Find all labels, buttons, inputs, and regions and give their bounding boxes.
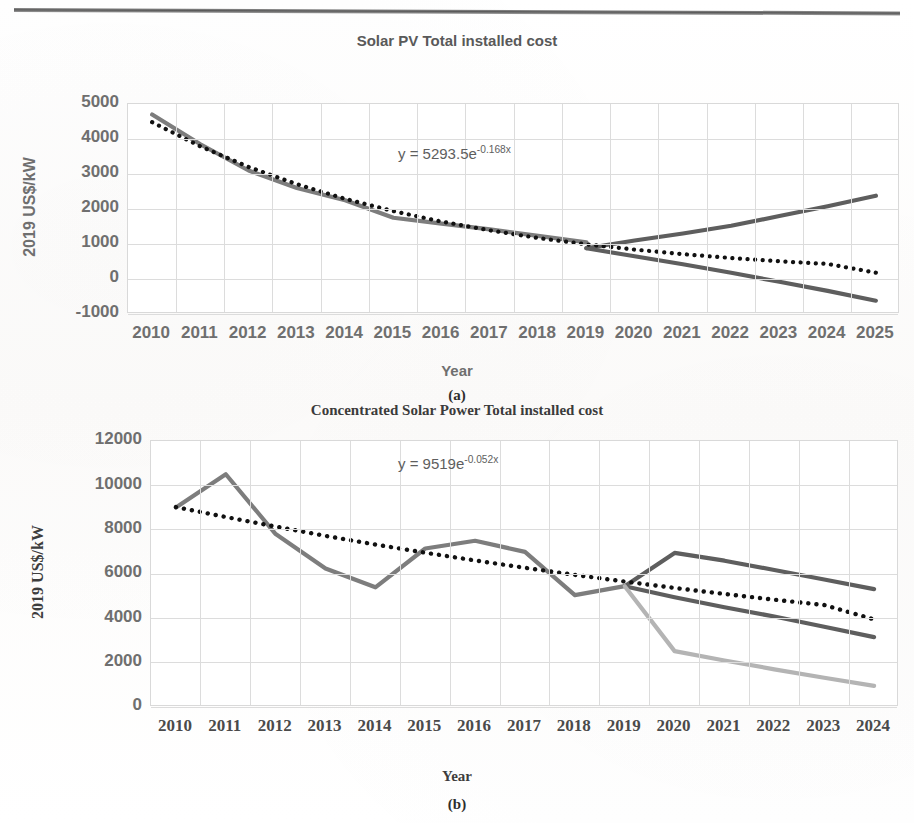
x-axis-tick-label: 2016 [449,716,499,736]
gridline-vertical [350,441,351,705]
chart-b-x-axis-label: Year [0,768,914,785]
x-axis-tick-label: 2022 [706,323,754,343]
gridline-vertical [707,104,708,312]
x-axis-tick-label: 2016 [417,323,465,343]
chart-b-equation-exponent: -0.052x [464,454,498,465]
x-axis-tick-label: 2023 [798,716,848,736]
x-axis-tick-label: 2015 [399,716,449,736]
y-axis-tick-label: 0 [44,267,119,287]
chart-b-trendline-equation: y = 9519e-0.052x [398,454,498,472]
gridline-vertical [649,441,650,705]
gridline-vertical [200,441,201,705]
chart-a-plot-area [127,103,899,313]
x-axis-tick-label: 2020 [610,323,658,343]
y-axis-tick-label: 6000 [47,562,142,582]
x-axis-tick-label: 2020 [649,716,699,736]
x-axis-tick-label: 2017 [499,716,549,736]
x-axis-tick-label: 2010 [127,323,175,343]
y-axis-tick-label: 4000 [47,607,142,627]
x-axis-tick-label: 2024 [803,323,851,343]
gridline-vertical [321,104,322,312]
gridline-horizontal [151,707,897,708]
gridline-vertical [658,104,659,312]
chart-a-title: Solar PV Total installed cost [0,32,914,49]
x-axis-tick-label: 2023 [754,323,802,343]
chart-b-caption: (b) [0,796,914,813]
gridline-vertical [803,104,804,312]
chart-a-trendline-equation: y = 5293.5e-0.168x [398,144,511,162]
x-axis-tick-label: 2018 [513,323,561,343]
x-axis-tick-label: 2011 [200,716,250,736]
gridline-vertical [549,441,550,705]
series-line [586,248,876,301]
gridline-horizontal [151,662,897,663]
gridline-horizontal [151,485,897,486]
gridline-vertical [465,104,466,312]
chart-b-equation-base: y = 9519e [398,455,464,472]
gridline-vertical [450,441,451,705]
x-axis-tick-label: 2019 [599,716,649,736]
chart-b-y-axis-label: 2019 US$/kW [29,492,47,652]
gridline-horizontal [151,618,897,619]
x-axis-tick-label: 2010 [150,716,200,736]
x-axis-tick-label: 2013 [272,323,320,343]
x-axis-tick-label: 2025 [851,323,899,343]
x-axis-tick-label: 2017 [465,323,513,343]
gridline-vertical [224,104,225,312]
gridline-vertical [610,104,611,312]
header-rule [14,8,900,15]
chart-solar-pv: Solar PV Total installed cost 2019 US$/k… [0,22,914,402]
series-line [176,507,874,619]
gridline-vertical [562,104,563,312]
chart-a-equation-base: y = 5293.5e [398,145,477,162]
gridline-vertical [300,441,301,705]
x-axis-tick-label: 2014 [320,323,368,343]
chart-a-equation-exponent: -0.168x [477,144,511,155]
gridline-vertical [514,104,515,312]
gridline-vertical [250,441,251,705]
y-axis-tick-label: 12000 [47,429,142,449]
x-axis-tick-label: 2015 [368,323,416,343]
gridline-vertical [851,104,852,312]
chart-concentrated-solar: Concentrated Solar Power Total installed… [0,398,914,823]
x-axis-tick-label: 2024 [848,716,898,736]
x-axis-tick-label: 2022 [748,716,798,736]
y-axis-tick-label: 2000 [47,651,142,671]
y-axis-tick-label: 0 [47,695,142,715]
gridline-vertical [500,441,501,705]
gridline-vertical [755,104,756,312]
gridline-vertical [699,441,700,705]
x-axis-tick-label: 2012 [224,323,272,343]
gridline-horizontal [151,574,897,575]
x-axis-tick-label: 2012 [250,716,300,736]
y-axis-tick-label: 8000 [47,518,142,538]
gridline-vertical [400,441,401,705]
gridline-vertical [417,104,418,312]
gridline-horizontal [128,314,898,315]
y-axis-tick-label: 10000 [47,474,142,494]
chart-a-y-axis-label: 2019 US$/kW [21,127,39,287]
chart-b-plot-area [150,440,898,706]
y-axis-tick-label: 3000 [44,162,119,182]
gridline-horizontal [151,529,897,530]
gridline-vertical [849,441,850,705]
gridline-vertical [749,441,750,705]
y-axis-tick-label: 5000 [44,92,119,112]
gridline-vertical [599,441,600,705]
x-axis-tick-label: 2011 [175,323,223,343]
series-line [586,196,876,249]
y-axis-tick-label: 2000 [44,197,119,217]
x-axis-tick-label: 2019 [561,323,609,343]
y-axis-tick-label: 4000 [44,127,119,147]
chart-a-x-axis-label: Year [0,362,914,379]
x-axis-tick-label: 2018 [549,716,599,736]
gridline-vertical [272,104,273,312]
document-page: Solar PV Total installed cost 2019 US$/k… [0,0,914,823]
x-axis-tick-label: 2014 [349,716,399,736]
x-axis-tick-label: 2013 [300,716,350,736]
gridline-vertical [176,104,177,312]
chart-b-title: Concentrated Solar Power Total installed… [0,402,914,419]
x-axis-tick-label: 2021 [658,323,706,343]
y-axis-tick-label: -1000 [44,302,119,322]
gridline-vertical [369,104,370,312]
